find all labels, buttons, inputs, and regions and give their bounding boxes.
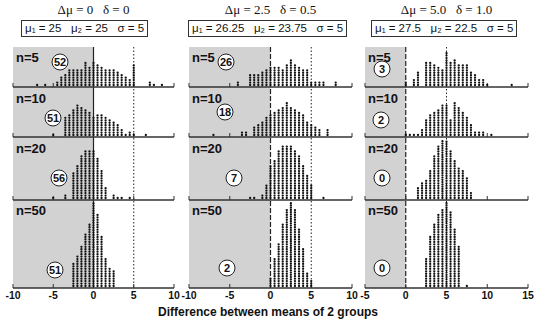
data-dot xyxy=(441,216,443,218)
data-dot xyxy=(425,69,427,71)
data-dot xyxy=(56,81,58,83)
data-dot xyxy=(433,129,435,131)
data-dot xyxy=(466,79,468,81)
data-dot xyxy=(445,233,447,235)
data-dot xyxy=(294,153,296,155)
data-dot xyxy=(92,227,94,229)
data-dot xyxy=(421,187,423,189)
data-dot xyxy=(265,187,267,189)
data-dot xyxy=(413,81,415,83)
data-dot xyxy=(269,192,271,194)
data-dot xyxy=(425,124,427,126)
data-dot xyxy=(298,124,300,126)
data-dot xyxy=(421,190,423,192)
data-dot xyxy=(470,127,472,129)
data-dot xyxy=(290,245,292,247)
data-dot xyxy=(269,84,271,86)
data-dot xyxy=(294,285,296,287)
data-dot xyxy=(112,74,114,76)
data-dot xyxy=(290,59,292,61)
data-dot xyxy=(245,134,247,136)
data-dot xyxy=(72,192,74,194)
data-dot xyxy=(269,74,271,76)
data-dot xyxy=(273,285,275,287)
data-dot xyxy=(84,114,86,116)
data-dot xyxy=(104,263,106,265)
data-dot xyxy=(449,194,451,196)
data-dot xyxy=(294,216,296,218)
data-dot xyxy=(302,270,304,272)
data-dot xyxy=(454,167,456,169)
data-dot xyxy=(286,270,288,272)
data-dot xyxy=(433,238,435,240)
data-dot xyxy=(290,77,292,79)
data-dot xyxy=(290,187,292,189)
data-dot xyxy=(298,160,300,162)
data-dot xyxy=(445,265,447,267)
data-dot xyxy=(92,67,94,69)
data-dot xyxy=(290,262,292,264)
data-dot xyxy=(298,167,300,169)
data-dot xyxy=(282,273,284,275)
data-dot xyxy=(290,180,292,182)
data-dot xyxy=(454,194,456,196)
data-dot xyxy=(310,81,312,83)
data-dot xyxy=(302,167,304,169)
data-dot xyxy=(458,122,460,124)
data-dot xyxy=(278,251,280,253)
data-dot xyxy=(445,153,447,155)
data-dot xyxy=(441,107,443,109)
data-dot xyxy=(278,119,280,121)
data-dot xyxy=(425,265,427,267)
data-dot xyxy=(88,185,90,187)
data-dot xyxy=(454,229,456,231)
data-dot xyxy=(458,263,460,265)
data-dot xyxy=(441,214,443,216)
data-dot xyxy=(298,231,300,233)
data-dot xyxy=(100,273,102,275)
data-dot xyxy=(294,243,296,245)
data-dot xyxy=(92,234,94,236)
data-dot xyxy=(112,194,114,196)
data-dot xyxy=(298,238,300,240)
data-dot xyxy=(449,170,451,172)
data-dot xyxy=(437,263,439,265)
data-dot xyxy=(298,134,300,136)
data-dot xyxy=(454,278,456,280)
data-dot xyxy=(294,197,296,199)
data-dot xyxy=(454,233,456,235)
data-dot xyxy=(449,172,451,174)
data-dot xyxy=(458,79,460,81)
data-dot xyxy=(429,258,431,260)
data-dot xyxy=(265,127,267,129)
data-dot xyxy=(96,241,98,243)
data-dot xyxy=(100,114,102,116)
data-dot xyxy=(278,285,280,287)
data-dot xyxy=(96,282,98,284)
data-dot xyxy=(92,263,94,265)
data-dot xyxy=(84,81,86,83)
data-dot xyxy=(286,122,288,124)
data-dot xyxy=(161,84,163,86)
data-dot xyxy=(294,246,296,248)
data-dot xyxy=(462,72,464,74)
data-dot xyxy=(282,109,284,111)
data-dot xyxy=(449,231,451,233)
data-dot xyxy=(282,150,284,152)
data-dot xyxy=(84,253,86,255)
data-dot xyxy=(326,131,328,133)
data-dot xyxy=(88,127,90,129)
data-dot xyxy=(80,69,82,71)
data-dot xyxy=(290,107,292,109)
data-dot xyxy=(88,241,90,243)
data-dot xyxy=(429,170,431,172)
data-dot xyxy=(265,117,267,119)
data-dot xyxy=(429,127,431,129)
data-dot xyxy=(290,172,292,174)
data-dot xyxy=(417,187,419,189)
data-dot xyxy=(302,127,304,129)
data-dot xyxy=(100,84,102,86)
data-dot xyxy=(257,124,259,126)
data-dot xyxy=(286,167,288,169)
data-dot xyxy=(294,69,296,71)
